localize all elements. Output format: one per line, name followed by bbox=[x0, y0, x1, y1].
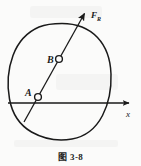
force-subscript: R bbox=[97, 16, 101, 22]
point-a-label: A bbox=[25, 88, 32, 98]
figure-caption: 图 3-8 bbox=[0, 150, 141, 163]
rigid-body-outline bbox=[8, 24, 111, 140]
point-b-label: B bbox=[47, 55, 54, 65]
point-a-marker bbox=[35, 94, 42, 101]
point-b-marker bbox=[56, 56, 63, 63]
x-axis-label: x bbox=[126, 110, 130, 119]
mechanics-diagram-svg bbox=[0, 0, 141, 166]
force-vector-label: FR bbox=[91, 11, 101, 22]
figure-container: A B x FR 图 3-8 bbox=[0, 0, 141, 166]
